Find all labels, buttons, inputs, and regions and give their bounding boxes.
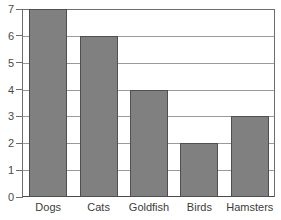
y-tick-label-2: 2 [0,138,14,149]
x-label-goldfish: Goldfish [129,201,169,214]
y-tick-label-0: 0 [0,192,14,203]
y-tick-label-7: 7 [0,4,14,15]
x-label-hamsters: Hamsters [226,201,273,214]
bar-birds [180,143,218,197]
y-tick-label-6: 6 [0,30,14,41]
x-label-birds: Birds [187,201,212,214]
bar-hamsters [231,116,269,197]
bar-cats [80,36,118,197]
plot-right-border [274,9,275,197]
bar-chart: 7 6 5 4 3 2 1 0 Dogs Cats Goldfish Birds [0,0,281,220]
plot-area [23,9,275,197]
y-tick-label-4: 4 [0,84,14,95]
bar-goldfish [130,90,168,197]
y-tick-label-5: 5 [0,57,14,68]
y-tick-label-1: 1 [0,165,14,176]
x-label-cats: Cats [87,201,110,214]
bar-dogs [29,9,67,197]
x-label-dogs: Dogs [35,201,61,214]
y-tick-label-3: 3 [0,111,14,122]
